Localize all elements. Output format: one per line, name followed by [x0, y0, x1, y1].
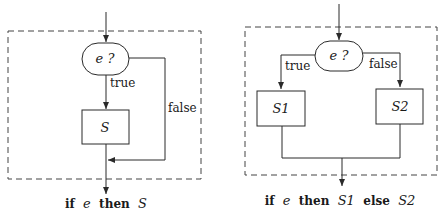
false-label: false: [168, 101, 197, 115]
caption-if: if: [65, 197, 76, 211]
caption-expr: e: [79, 196, 91, 211]
caption: if e then S1 else S2: [265, 193, 416, 208]
false-label: false: [369, 57, 398, 71]
caption-else: else: [359, 194, 390, 208]
if-then-else-diagram: e ? true false S1 S2 if e then S1 else S…: [245, 4, 437, 208]
caption-then: then: [295, 194, 330, 208]
caption: if e then S: [65, 196, 147, 211]
true-label: true: [285, 59, 310, 73]
statement-true-label: S1: [272, 101, 289, 116]
caption-expr: e: [279, 193, 291, 208]
caption-stmt: S: [134, 196, 147, 211]
statement-label: S: [101, 120, 110, 135]
flowchart-svg: e ? true S false if e then S e ? true: [0, 0, 443, 216]
caption-if: if: [265, 194, 276, 208]
condition-label: e ?: [96, 51, 116, 66]
merge-path: [282, 124, 400, 158]
flowchart-canvas: e ? true S false if e then S e ? true: [0, 0, 443, 216]
caption-then: then: [95, 197, 130, 211]
caption-stmt-false: S2: [394, 193, 415, 208]
condition-label: e ?: [330, 48, 350, 63]
statement-false-label: S2: [391, 99, 408, 114]
true-label: true: [110, 76, 135, 90]
if-then-diagram: e ? true S false if e then S: [8, 12, 201, 211]
caption-stmt-true: S1: [334, 193, 355, 208]
